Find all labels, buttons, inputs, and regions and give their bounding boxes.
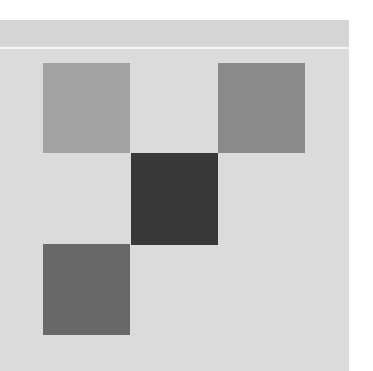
tile-center [131, 153, 218, 245]
tile-bottom-left [43, 244, 130, 335]
tile-top-right [218, 63, 305, 153]
canvas [0, 0, 373, 371]
tile-top-left [43, 63, 130, 153]
header-band [0, 20, 349, 46]
divider-line [0, 47, 349, 49]
